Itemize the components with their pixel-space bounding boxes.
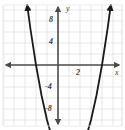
y-tick-label-8: 8	[49, 16, 53, 24]
y-tick-label-4: 4	[49, 38, 53, 46]
parabola-figure: 8 4 -4 -8 2 y x	[0, 0, 125, 130]
y-axis-label: y	[66, 5, 70, 13]
y-tick-label-minus-4: -4	[45, 83, 52, 91]
x-axis-label: x	[115, 69, 119, 77]
graph-canvas	[0, 0, 125, 130]
y-tick-label-minus-8: -8	[45, 105, 52, 113]
x-tick-label-2: 2	[76, 69, 80, 77]
